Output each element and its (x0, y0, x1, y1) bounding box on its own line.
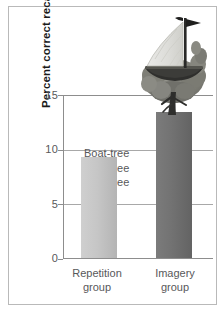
y-tick-10: 10 (28, 144, 58, 155)
y-tick-label-5: 5 (34, 199, 58, 210)
x-label-imagery-line1: Imagery (130, 266, 220, 280)
y-tick-label-0: 0 (34, 253, 58, 264)
x-label-repetition-line2: group (52, 280, 142, 294)
y-tick-0: 0 (28, 253, 58, 264)
sailboat-tree-icon (137, 12, 213, 116)
y-tick-label-15: 15 (34, 90, 58, 101)
bar-imagery-group (156, 112, 192, 258)
bar-repetition-group (81, 157, 117, 258)
x-label-imagery-line2: group (130, 280, 220, 294)
figure-container: Percent correct recall 15 10 5 0 Boat-tr… (0, 0, 224, 311)
plot-area: Boat-tree Boat-tree Boat-tree (63, 95, 213, 259)
x-axis-label-repetition: Repetition group (52, 266, 142, 294)
y-axis-title: Percent correct recall (40, 0, 52, 138)
y-tick-mark-0 (58, 259, 63, 260)
y-tick-15: 15 (28, 90, 58, 101)
x-label-repetition-line1: Repetition (52, 266, 142, 280)
x-axis-label-imagery: Imagery group (130, 266, 220, 294)
y-tick-5: 5 (28, 199, 58, 210)
y-tick-label-10: 10 (34, 144, 58, 155)
